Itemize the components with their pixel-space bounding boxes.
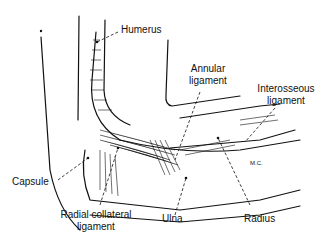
elbow-illustration — [0, 0, 324, 238]
label-radial-collateral-ligament-line2: ligament — [74, 221, 118, 232]
label-interosseous-ligament-line1: Interosseous — [251, 83, 321, 94]
artist-initials: M.C. — [250, 158, 263, 169]
label-interosseous-ligament-line2: ligament — [262, 95, 310, 106]
label-annular-ligament-line1: Annular — [188, 63, 228, 74]
label-radius: Radius — [244, 213, 275, 224]
label-capsule: Capsule — [12, 176, 49, 187]
elbow-diagram: Humerus Annular ligament Interosseous li… — [0, 0, 324, 238]
label-humerus: Humerus — [121, 24, 162, 35]
label-radial-collateral-ligament-line1: Radial collateral — [54, 209, 138, 220]
label-annular-ligament-line2: ligament — [186, 75, 230, 86]
label-ulna: Ulna — [162, 213, 183, 224]
